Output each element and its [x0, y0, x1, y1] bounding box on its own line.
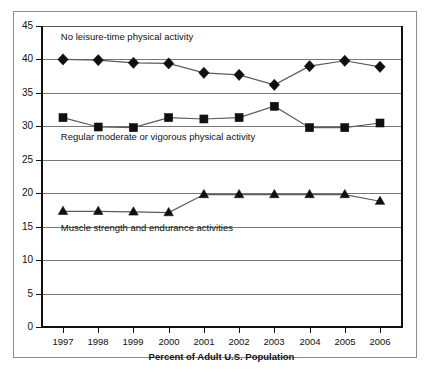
series-2 — [59, 102, 384, 131]
triangle-marker — [94, 206, 103, 214]
series-line — [63, 59, 380, 84]
series-annotation-label: No leisure-time physical activity — [61, 31, 194, 42]
x-axis-tick — [169, 328, 170, 333]
x-axis-tick — [63, 328, 64, 333]
square-marker — [341, 124, 349, 132]
x-axis-tick — [380, 328, 381, 333]
x-axis-tick — [274, 328, 275, 333]
series-line — [63, 106, 380, 127]
triangle-marker — [305, 189, 314, 197]
series-annotation-label: Muscle strength and endurance activities — [61, 222, 233, 233]
x-axis-tick — [345, 328, 346, 333]
square-marker — [200, 115, 208, 123]
x-axis-tick — [98, 328, 99, 333]
x-axis-tick — [204, 328, 205, 333]
series-line — [63, 195, 380, 213]
square-marker — [270, 102, 278, 110]
diamond-marker — [340, 55, 350, 66]
square-marker — [235, 114, 243, 122]
square-marker — [94, 123, 102, 131]
series-1 — [58, 54, 385, 91]
triangle-marker — [270, 189, 279, 197]
x-axis-tick — [133, 328, 134, 333]
triangle-marker — [340, 189, 349, 197]
triangle-marker — [129, 207, 138, 215]
triangle-marker — [199, 189, 208, 197]
diamond-marker — [93, 55, 103, 66]
x-axis-tick — [310, 328, 311, 333]
diamond-marker — [199, 67, 209, 78]
diamond-marker — [234, 69, 244, 80]
square-marker — [306, 124, 314, 132]
diamond-marker — [128, 57, 138, 68]
x-axis-tick-label: 2006 — [358, 336, 402, 347]
series-3 — [58, 189, 384, 215]
diamond-marker — [269, 79, 279, 90]
series-annotation-label: Regular moderate or vigorous physical ac… — [61, 131, 255, 142]
triangle-marker — [234, 189, 243, 197]
x-axis-title: Percent of Adult U.S. Population — [41, 351, 402, 362]
x-axis-tick — [239, 328, 240, 333]
chart-figure: 051015202530354045 199719981999200020012… — [0, 0, 429, 379]
series-svg-layer — [0, 0, 429, 379]
square-marker — [376, 119, 384, 127]
diamond-marker — [163, 58, 173, 69]
diamond-marker — [304, 61, 314, 72]
square-marker — [59, 114, 67, 122]
triangle-marker — [164, 208, 173, 216]
triangle-marker — [58, 206, 67, 214]
diamond-marker — [58, 54, 68, 65]
diamond-marker — [375, 61, 385, 72]
square-marker — [165, 114, 173, 122]
